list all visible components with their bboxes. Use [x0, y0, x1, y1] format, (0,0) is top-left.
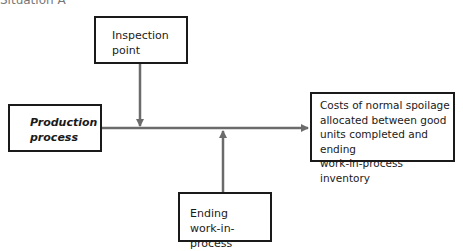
costs-label-line3: units completed and ending — [320, 127, 453, 156]
ending-label-line1: Ending — [190, 206, 270, 221]
costs-label-line4: work-in-process inventory — [320, 156, 453, 185]
ending-wip-box: Ending work-in-process — [178, 192, 272, 242]
inspection-label-line1: Inspection — [112, 28, 186, 43]
inspection-label-line2: point — [112, 43, 186, 58]
spoilage-costs-box: Costs of normal spoilage allocated betwe… — [310, 92, 455, 162]
production-process-box: Production process — [8, 104, 102, 152]
ending-label-line2: work-in-process — [190, 221, 270, 251]
production-label-line1: Production — [30, 115, 100, 130]
costs-label-line2: allocated between good — [320, 113, 453, 128]
inspection-point-box: Inspection point — [94, 16, 188, 64]
production-label-line2: process — [30, 130, 100, 145]
costs-label-line1: Costs of normal spoilage — [320, 98, 453, 113]
